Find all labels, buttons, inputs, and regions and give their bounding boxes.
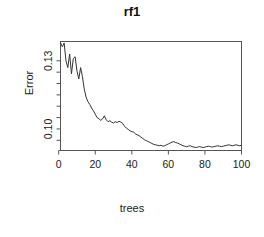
x-axis-tick-label: 0 (56, 158, 62, 170)
y-axis: 0.100.13 (42, 50, 61, 140)
plot-box (61, 42, 242, 151)
x-axis: 020406080100 (56, 151, 251, 170)
y-axis-tick-label: 0.13 (42, 50, 54, 71)
x-axis-tick-label: 80 (199, 158, 211, 170)
chart-plot-root: rf1 Error trees 0.100.13 020406080100 (0, 0, 264, 237)
x-axis-tick-label: 40 (126, 158, 138, 170)
x-axis-tick-label: 100 (233, 158, 251, 170)
data-series-group (61, 43, 242, 148)
y-axis-tick-label: 0.10 (42, 119, 54, 140)
plot-box-frame (61, 42, 242, 151)
series-line (61, 43, 242, 148)
x-axis-tick-label: 20 (89, 158, 101, 170)
x-axis-tick-label: 60 (163, 158, 175, 170)
plot-area-svg: 0.100.13 020406080100 (0, 0, 264, 237)
